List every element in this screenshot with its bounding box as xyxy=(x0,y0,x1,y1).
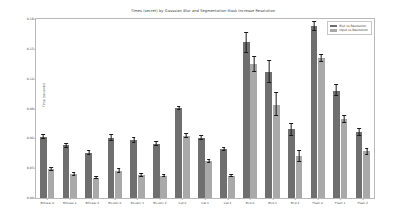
legend-swatch-input xyxy=(330,29,337,32)
error-bar-cap xyxy=(72,172,76,173)
bar xyxy=(153,144,160,198)
error-bar-cap xyxy=(312,30,316,31)
error-bar-cap xyxy=(275,115,279,116)
x-tick-mark xyxy=(362,198,363,200)
bar xyxy=(70,174,77,198)
y-tick-label: 0.15 xyxy=(27,47,34,51)
error-bar-cap xyxy=(289,123,293,124)
error-bar-cap xyxy=(49,167,53,168)
bar xyxy=(288,129,295,198)
bar xyxy=(356,132,363,198)
error-bar-cap xyxy=(162,174,166,175)
error-bar-cap xyxy=(154,145,158,146)
error-bar-cap xyxy=(357,128,361,129)
error-bar xyxy=(253,57,254,72)
error-bar-cap xyxy=(289,135,293,136)
error-bar-cap xyxy=(222,150,226,151)
bar xyxy=(311,26,318,198)
error-bar-cap xyxy=(177,106,181,107)
error-bar-cap xyxy=(335,95,339,96)
error-bar xyxy=(268,60,269,83)
error-bar-cap xyxy=(297,161,301,162)
bar xyxy=(220,149,227,198)
error-bar-cap xyxy=(275,92,279,93)
y-tick-label: 0.03 xyxy=(27,166,34,170)
x-tick-label: Bilinear 0 xyxy=(40,201,54,205)
x-tick-label: Flash 2 xyxy=(358,201,368,205)
error-bar-cap xyxy=(87,154,91,155)
error-bar-cap xyxy=(132,142,136,143)
x-tick-label: Bicubic 1 xyxy=(131,201,144,205)
y-tick-label: 0.06 xyxy=(27,136,34,140)
error-bar-cap xyxy=(207,159,211,160)
bar xyxy=(250,64,257,198)
x-tick-mark xyxy=(205,198,206,200)
error-bar-cap xyxy=(320,61,324,62)
legend-swatch-blur xyxy=(330,25,337,28)
error-bar-cap xyxy=(162,176,166,177)
x-tick-mark xyxy=(340,198,341,200)
chart-title: Times (secret) by Gaussian Blur and Segm… xyxy=(0,9,406,13)
error-bar-cap xyxy=(132,137,136,138)
x-tick-label: Bird 2 xyxy=(291,201,300,205)
bar xyxy=(175,108,182,198)
x-tick-label: Flash 1 xyxy=(335,201,345,205)
error-bar-cap xyxy=(139,173,143,174)
error-bar-cap xyxy=(139,176,143,177)
x-tick-label: Cat 2 xyxy=(224,201,232,205)
error-bar-cap xyxy=(117,168,121,169)
bar xyxy=(160,176,167,198)
error-bar-cap xyxy=(357,135,361,136)
error-bar-cap xyxy=(342,122,346,123)
bar xyxy=(63,145,70,198)
bar xyxy=(198,138,205,198)
figure: Times (secret) by Gaussian Blur and Segm… xyxy=(0,0,406,222)
bar xyxy=(108,138,115,198)
error-bar xyxy=(276,93,277,116)
error-bar-cap xyxy=(184,133,188,134)
bar xyxy=(130,140,137,198)
error-bar xyxy=(246,32,247,52)
bar xyxy=(265,72,272,198)
legend-entry: Input vs Resolution xyxy=(330,28,368,32)
error-bar-cap xyxy=(109,134,113,135)
x-tick-label: Bird 1 xyxy=(268,201,277,205)
error-bar-cap xyxy=(42,138,46,139)
plot-area xyxy=(36,19,374,198)
error-bar-cap xyxy=(177,109,181,110)
error-bar-cap xyxy=(267,82,271,83)
error-bar-cap xyxy=(117,172,121,173)
legend-label: Input vs Resolution xyxy=(339,28,368,32)
error-bar xyxy=(291,123,292,135)
error-bar-cap xyxy=(312,21,316,22)
error-bar-cap xyxy=(252,56,256,57)
bar xyxy=(205,161,212,198)
x-tick-label: Cat 1 xyxy=(201,201,209,205)
error-bar-cap xyxy=(42,134,46,135)
error-bar-cap xyxy=(64,147,68,148)
x-tick-mark xyxy=(182,198,183,200)
x-tick-label: Bilinear 2 xyxy=(85,201,99,205)
error-bar-cap xyxy=(365,154,369,155)
bar xyxy=(138,175,145,198)
y-tick-label: 0.18 xyxy=(27,17,34,21)
bar xyxy=(341,119,348,198)
bar xyxy=(363,151,370,198)
error-bar-cap xyxy=(64,143,68,144)
bar xyxy=(48,169,55,198)
error-bar-cap xyxy=(207,162,211,163)
bar xyxy=(40,137,47,198)
bar xyxy=(243,42,250,198)
x-tick-mark xyxy=(272,198,273,200)
plot-axes: Time (seconds) 0.000.030.060.090.120.150… xyxy=(35,18,375,199)
bar xyxy=(228,176,235,198)
error-bar-cap xyxy=(244,32,248,33)
bar xyxy=(115,171,122,198)
x-tick-label: Bicubic 2 xyxy=(153,201,166,205)
bar xyxy=(85,153,92,198)
error-bar-cap xyxy=(222,147,226,148)
x-tick-mark xyxy=(160,198,161,200)
x-tick-label: Bicubic 0 xyxy=(108,201,121,205)
y-tick-label: 0.12 xyxy=(27,77,34,81)
x-tick-mark xyxy=(47,198,48,200)
